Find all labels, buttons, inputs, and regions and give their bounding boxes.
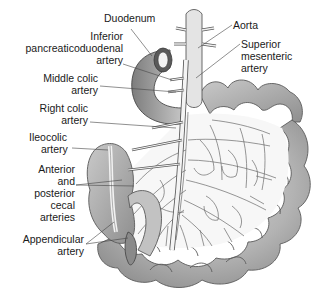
label-line: Middle colic — [43, 72, 98, 84]
label-line: pancreaticoduodenal — [26, 42, 124, 54]
label-appendicular-artery: Appendicular artery — [23, 233, 84, 257]
label-line: Superior — [241, 38, 292, 50]
label-line: Anterior — [34, 163, 75, 175]
label-line: Inferior — [26, 30, 124, 42]
label-line: mesenteric — [241, 50, 292, 62]
label-line: cecal — [34, 199, 75, 211]
label-aorta: Aorta — [233, 19, 258, 31]
label-line: Aorta — [233, 19, 258, 31]
label-line: artery — [26, 54, 124, 66]
label-line: artery — [23, 245, 84, 257]
label-line: Duodenum — [104, 12, 155, 24]
label-duodenum: Duodenum — [104, 12, 155, 24]
label-line: posterior — [34, 187, 75, 199]
label-right-colic-artery: Right colic artery — [40, 102, 88, 126]
anatomy-diagram: Duodenum Inferior pancreaticoduodenal ar… — [0, 0, 323, 294]
label-line: and — [34, 175, 75, 187]
label-anterior-posterior-cecal-arteries: Anterior and posterior cecal arteries — [34, 163, 75, 223]
duodenum-loop — [132, 48, 182, 124]
label-line: artery — [29, 143, 68, 155]
label-line: artery — [43, 84, 98, 96]
label-superior-mesenteric-artery: Superior mesenteric artery — [241, 38, 292, 74]
label-line: artery — [241, 62, 292, 74]
label-line: Ileocolic — [29, 131, 68, 143]
label-line: arteries — [34, 211, 75, 223]
label-middle-colic-artery: Middle colic artery — [43, 72, 98, 96]
label-ileocolic-artery: Ileocolic artery — [29, 131, 68, 155]
arterial-arcades — [118, 112, 289, 250]
label-inferior-pancreaticoduodenal-artery: Inferior pancreaticoduodenal artery — [26, 30, 124, 66]
label-line: Appendicular — [23, 233, 84, 245]
label-line: Right colic — [40, 102, 88, 114]
label-line: artery — [40, 114, 88, 126]
